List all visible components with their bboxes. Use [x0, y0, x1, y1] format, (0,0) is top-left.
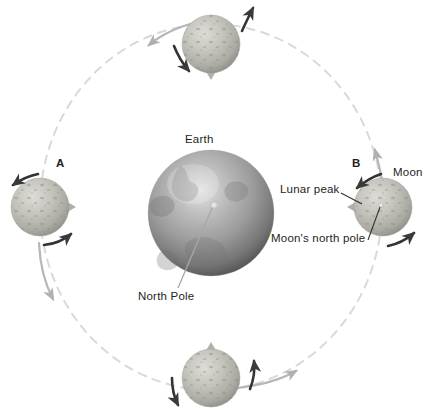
- moon-bottom-group: [172, 342, 254, 407]
- earth-highlight: [167, 164, 219, 204]
- position-b-label: B: [352, 158, 361, 170]
- earth-north-pole-marker: [210, 201, 217, 208]
- north-pole-label: North Pole: [138, 291, 194, 303]
- moon-bottom-spin-arrow-lower: [172, 378, 178, 405]
- moon-label: Moon: [393, 167, 423, 179]
- diagram-canvas: Earth Moon A B Lunar peak Moon's north p…: [0, 0, 431, 414]
- earth-group: [148, 150, 278, 288]
- earth-label: Earth: [185, 134, 214, 146]
- moon-left-group: [11, 174, 76, 245]
- moon-right-north-pole-marker: [379, 203, 383, 207]
- moon-orbit-diagram: [0, 0, 431, 414]
- moon-top-group: [174, 8, 253, 80]
- moons-north-pole-label: Moon's north pole: [271, 233, 365, 245]
- moon-left-spin-arrow-lower: [44, 234, 71, 245]
- position-a-label: A: [56, 158, 65, 170]
- lunar-peak-label: Lunar peak: [280, 184, 340, 196]
